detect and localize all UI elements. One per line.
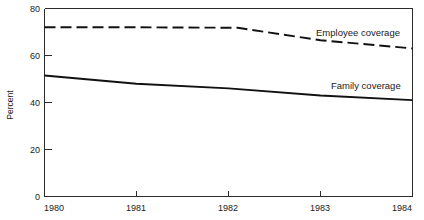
y-tick-marks	[45, 9, 52, 197]
line-chart: 80 60 40 20 0 Percent 1980 1981 1982 198…	[0, 0, 424, 220]
y-tick-label-20: 20	[30, 145, 40, 155]
series-label-employee-coverage: Employee coverage	[316, 27, 400, 38]
y-tick-labels: 80 60 40 20 0	[30, 4, 40, 202]
x-tick-label-1983: 1983	[310, 203, 330, 213]
x-tick-label-1984: 1984	[392, 203, 412, 213]
y-tick-label-80: 80	[30, 4, 40, 14]
x-tick-label-1980: 1980	[44, 203, 64, 213]
x-tick-marks	[45, 191, 413, 197]
chart-container: 80 60 40 20 0 Percent 1980 1981 1982 198…	[0, 0, 424, 220]
y-tick-label-60: 60	[30, 51, 40, 61]
y-tick-label-0: 0	[35, 192, 40, 202]
x-tick-labels: 1980 1981 1982 1983 1984	[44, 203, 412, 213]
series-label-family-coverage: Family coverage	[331, 80, 401, 91]
x-tick-label-1981: 1981	[126, 203, 146, 213]
y-tick-label-40: 40	[30, 98, 40, 108]
y-axis-title: Percent	[5, 90, 15, 120]
x-tick-label-1982: 1982	[218, 203, 238, 213]
